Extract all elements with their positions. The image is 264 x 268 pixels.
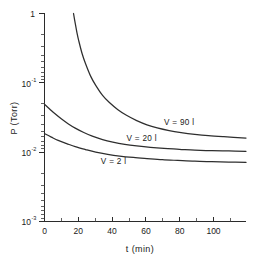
y-axis-tick-labels: 1 10 -1 10 -2 10 -3 bbox=[22, 9, 37, 227]
y-tick-label-1e-2-exponent: -2 bbox=[32, 146, 37, 152]
series-label-v2: V = 2 l bbox=[101, 157, 127, 166]
axes-group bbox=[45, 13, 247, 222]
series-label-v90: V = 90 l bbox=[164, 118, 194, 127]
x-tick-label-100: 100 bbox=[206, 226, 220, 236]
y-axis-major-ticks bbox=[39, 14, 45, 222]
y-tick-label-1e-3-exponent: -3 bbox=[32, 215, 37, 221]
y-axis-title: P (Torr) bbox=[9, 101, 19, 134]
curve-v20 bbox=[45, 104, 247, 151]
x-axis-title: t (min) bbox=[126, 244, 154, 254]
curve-v90 bbox=[74, 14, 246, 139]
x-tick-label-60: 60 bbox=[141, 226, 151, 236]
pressure-vs-time-chart: 1 10 -1 10 -2 10 -3 0 20 40 60 80 100 P … bbox=[0, 0, 264, 268]
x-tick-label-0: 0 bbox=[42, 226, 47, 236]
y-tick-label-1e-1-exponent: -1 bbox=[32, 77, 37, 83]
figure-container: 1 10 -1 10 -2 10 -3 0 20 40 60 80 100 P … bbox=[0, 0, 264, 268]
y-tick-label-1e-3-base: 10 bbox=[22, 217, 32, 227]
y-tick-label-1: 1 bbox=[30, 9, 35, 19]
x-tick-label-80: 80 bbox=[175, 226, 185, 236]
x-tick-label-20: 20 bbox=[74, 226, 84, 236]
x-tick-label-40: 40 bbox=[107, 226, 117, 236]
y-tick-label-1e-2-base: 10 bbox=[22, 148, 32, 158]
y-axis-minor-ticks bbox=[41, 34, 45, 218]
series-label-v20: V = 20 l bbox=[126, 134, 156, 143]
y-tick-label-1e-1-base: 10 bbox=[22, 79, 32, 89]
x-axis-tick-labels: 0 20 40 60 80 100 bbox=[42, 226, 221, 236]
